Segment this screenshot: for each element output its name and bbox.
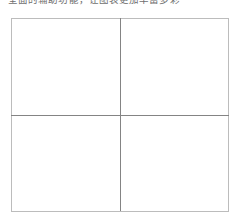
document-caption: 全面的辅助功能，让图表更加丰富多彩: [8, 0, 180, 5]
table-cell-text: [121, 19, 229, 115]
table-row: [12, 115, 229, 212]
table-body: [12, 19, 229, 212]
table-cell-r1c1[interactable]: [120, 115, 229, 212]
table-container: [11, 18, 229, 212]
table-cell-r1c0[interactable]: [12, 115, 121, 212]
document-page: 全面的辅助功能，让图表更加丰富多彩: [0, 0, 242, 224]
caption-clip-region: 全面的辅助功能，让图表更加丰富多彩: [0, 0, 242, 7]
table-row: [12, 19, 229, 116]
empty-2x2-table[interactable]: [11, 18, 229, 212]
table-cell-r0c1[interactable]: [120, 19, 229, 116]
table-cell-text: [121, 116, 229, 212]
table-cell-text: [12, 19, 120, 115]
table-cell-text: [12, 116, 120, 212]
table-cell-r0c0[interactable]: [12, 19, 121, 116]
